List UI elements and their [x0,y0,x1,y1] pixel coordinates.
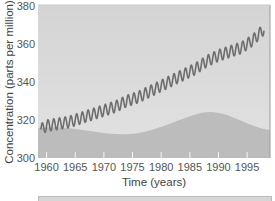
y-axis-tick-labels: 300320340360380 [17,0,35,164]
x-tick-label: 1960 [34,161,58,173]
y-tick-label: 360 [17,38,35,50]
bottom-panel-edge [38,196,272,201]
y-tick-label: 300 [17,152,35,164]
co2-chart: 300320340360380 196019651970197519801985… [0,0,275,201]
y-tick-label: 340 [17,76,35,88]
x-tick-label: 1995 [235,161,259,173]
x-tick-label: 1980 [149,161,173,173]
x-tick-label: 1970 [92,161,116,173]
x-tick-label: 1975 [120,161,144,173]
y-tick-label: 320 [17,114,35,126]
plot-area [38,5,270,158]
y-axis-title: Concentration (parts per million) [3,0,15,164]
x-axis-tick-labels: 19601965197019751980198519901995 [34,161,259,173]
x-tick-label: 1965 [63,161,87,173]
y-tick-label: 380 [17,0,35,12]
x-axis-title: Time (years) [122,176,186,188]
x-tick-label: 1985 [178,161,202,173]
x-tick-label: 1990 [206,161,230,173]
